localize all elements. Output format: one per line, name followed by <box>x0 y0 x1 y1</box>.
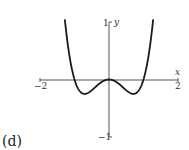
y-axis-label: y <box>113 17 120 27</box>
panel-label: (d) <box>2 133 22 149</box>
chart: −2 2 1 −1 x y (d) <box>0 0 189 150</box>
y-tick-label-max: 1 <box>103 18 109 28</box>
x-axis-label: x <box>175 67 180 77</box>
x-tick-label-min: −2 <box>34 81 47 91</box>
y-tick-label-min: −1 <box>98 132 111 142</box>
x-tick-label-max: 2 <box>175 81 181 91</box>
